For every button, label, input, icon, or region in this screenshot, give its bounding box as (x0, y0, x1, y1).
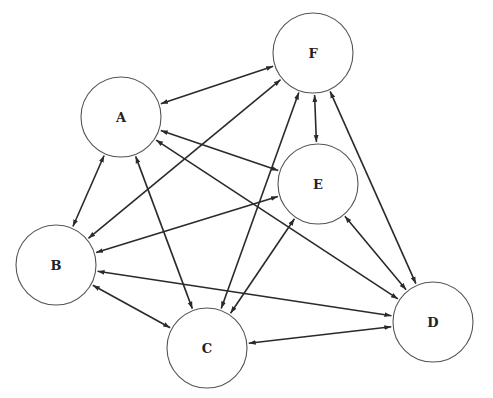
node-label: A (115, 110, 127, 125)
edge-b-d (98, 271, 392, 315)
node-e: E (278, 144, 358, 224)
node-f: F (273, 13, 353, 93)
node-label: E (313, 177, 323, 192)
edge-a-c (136, 156, 193, 308)
node-d: D (393, 282, 473, 362)
edge-e-d (345, 216, 406, 289)
edge-c-d (249, 327, 392, 343)
edge-f-e (315, 95, 317, 142)
node-label: B (51, 258, 62, 273)
node-b: B (16, 225, 96, 305)
node-label: F (308, 46, 318, 61)
edge-a-b (73, 155, 104, 226)
edge-b-c (93, 285, 170, 328)
node-label: D (427, 315, 438, 330)
edge-a-f (161, 66, 273, 103)
node-c: C (167, 308, 247, 388)
node-label: C (202, 341, 212, 356)
graph-svg: ABCDEF (0, 0, 493, 398)
node-a: A (81, 77, 161, 157)
graph-canvas: ABCDEF (0, 0, 493, 398)
